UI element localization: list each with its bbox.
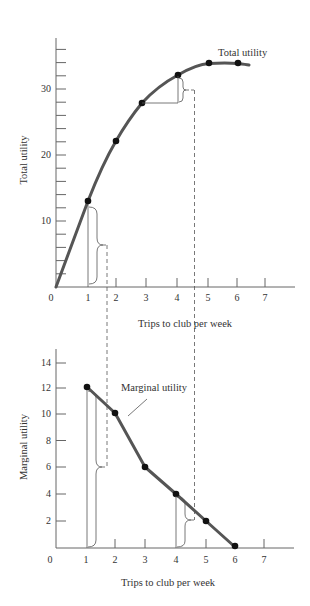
svg-text:8: 8 [46,435,51,446]
utility-figure: 10 20 30 0 1 2 3 4 5 6 7 Trips to club p… [0,0,310,606]
svg-text:1: 1 [86,292,91,303]
svg-text:5: 5 [206,292,211,303]
bottom-y-axis-label: Marginal utility [18,413,29,480]
total-utility-points [85,60,242,205]
svg-text:4: 4 [175,292,180,303]
svg-text:14: 14 [41,357,51,368]
total-utility-label: Total utility [218,47,268,58]
svg-text:3: 3 [144,292,149,303]
bottom-y-tick-labels: 2 4 6 8 10 12 14 [41,357,51,526]
svg-text:6: 6 [46,461,51,472]
svg-text:2: 2 [46,515,51,526]
top-x-ticks [116,278,265,287]
top-y-tick-label-30: 30 [41,83,51,94]
svg-text:0: 0 [48,554,53,565]
top-y-ticks [56,49,66,273]
top-x-axis-label: Trips to club per week [138,318,233,329]
svg-text:5: 5 [204,554,209,565]
bottom-y-ticks [56,363,66,521]
svg-text:7: 7 [262,554,267,565]
svg-text:10: 10 [41,408,51,419]
bottom-x-tick-labels: 0 1 2 3 4 5 6 7 [48,554,267,565]
svg-text:6: 6 [233,554,238,565]
top-x-tick-labels: 0 1 2 3 4 5 6 7 [49,292,268,303]
marginal-utility-leader [128,399,147,416]
top-y-tick-label-20: 20 [41,149,51,160]
bottom-x-ticks [115,539,264,548]
top-y-tick-label-10: 10 [41,215,51,226]
svg-text:4: 4 [46,488,51,499]
svg-text:12: 12 [41,382,51,393]
svg-text:1: 1 [84,554,89,565]
top-brace-1 [89,207,103,284]
svg-text:7: 7 [263,292,268,303]
svg-text:4: 4 [174,554,179,565]
marginal-utility-chart: 2 4 6 8 10 12 14 0 1 2 3 4 5 6 7 Trips t… [18,349,294,588]
marginal-utility-line [87,387,235,547]
bottom-x-axis-label: Trips to club per week [121,577,216,588]
bottom-brace-1 [88,391,102,547]
svg-text:3: 3 [143,554,148,565]
total-utility-curve [56,63,249,287]
svg-text:2: 2 [114,292,119,303]
top-brace-4 [179,78,186,102]
svg-text:6: 6 [235,292,240,303]
total-utility-chart: 10 20 30 0 1 2 3 4 5 6 7 Trips to club p… [18,38,295,329]
top-y-axis-label: Total utility [18,135,29,185]
svg-text:2: 2 [113,554,118,565]
marginal-utility-label: Marginal utility [121,382,188,393]
svg-text:0: 0 [49,292,54,303]
